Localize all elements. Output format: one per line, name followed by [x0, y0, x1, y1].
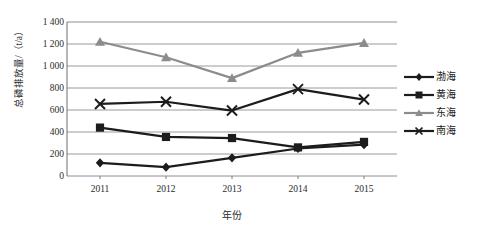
- data-point-square-icon: [162, 133, 170, 141]
- data-point-square-icon: [360, 138, 368, 146]
- chart-figure: 总磷排放量/（t/a） 1 400 1 200 1 000 800 600 40…: [0, 0, 480, 230]
- x-tick-label: 2013: [223, 184, 242, 194]
- legend-label: 南海: [434, 122, 456, 137]
- legend-item-donghai[interactable]: 东海: [404, 102, 480, 120]
- x-tick-label: 2014: [289, 184, 308, 194]
- data-point-triangle-icon: [95, 37, 105, 46]
- chart-legend: 渤海 黄海 东海 南海: [404, 66, 480, 138]
- legend-marker-square-icon: [404, 87, 434, 99]
- legend-label: 渤海: [434, 68, 456, 83]
- data-point-diamond-icon: [228, 153, 236, 162]
- legend-label: 黄海: [434, 86, 456, 101]
- legend-label: 东海: [434, 104, 456, 119]
- legend-item-nanhai[interactable]: 南海: [404, 120, 480, 138]
- legend-marker-diamond-icon: [404, 69, 434, 81]
- x-tick-label: 2011: [91, 184, 110, 194]
- series-line: [100, 89, 364, 110]
- data-point-square-icon: [228, 134, 236, 142]
- legend-marker-cross-icon: [404, 123, 434, 135]
- legend-item-bohai[interactable]: 渤海: [404, 66, 480, 84]
- data-point-square-icon: [96, 124, 104, 132]
- series-line: [100, 42, 364, 78]
- x-tick-label: 2012: [157, 184, 176, 194]
- legend-marker-triangle-icon: [404, 105, 434, 117]
- legend-item-huanghai[interactable]: 黄海: [404, 84, 480, 102]
- data-point-square-icon: [294, 143, 302, 151]
- data-point-diamond-icon: [162, 163, 170, 172]
- series-南海: [95, 84, 369, 115]
- x-tick-label: 2015: [355, 184, 374, 194]
- x-axis-title: 年份: [67, 207, 397, 222]
- data-point-diamond-icon: [96, 158, 104, 167]
